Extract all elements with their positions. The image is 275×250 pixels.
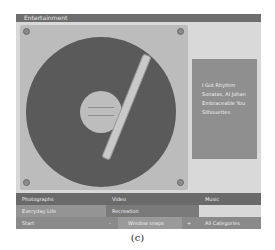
playlist-panel: I Got Rhythm Sonatas, Al Johan Embraceab…	[192, 59, 257, 159]
playlist-item[interactable]: I Got Rhythm	[202, 82, 235, 88]
vinyl-record[interactable]	[26, 37, 176, 187]
everyday-life-item[interactable]: Everyday Life	[16, 205, 106, 217]
header-photographs[interactable]: Photographs	[16, 193, 106, 205]
playlist-item[interactable]: Embraceable You	[202, 100, 245, 106]
main-area: I Got Rhythm Sonatas, Al Johan Embraceab…	[16, 22, 261, 193]
bottom-panel: Photographs Video Music Everyday Life Re…	[16, 193, 261, 229]
music-selected-field[interactable]	[199, 205, 261, 217]
all-categories-dropdown[interactable]: All Categories	[199, 217, 261, 229]
screw-icon	[23, 179, 30, 186]
turntable	[20, 25, 188, 190]
header-music[interactable]: Music	[199, 193, 261, 205]
minus-button[interactable]: -	[106, 217, 118, 229]
playlist-item[interactable]: Sonatas, Al Johan	[202, 91, 246, 97]
entertainment-window: Entertainment I Got Rhythm Sonatas, Al J…	[16, 14, 261, 229]
screw-icon	[23, 28, 30, 35]
playlist-item[interactable]: Silhouettes	[202, 109, 230, 115]
screw-icon	[177, 179, 184, 186]
window-snaps-field[interactable]: Window snaps	[118, 217, 182, 229]
screw-icon	[177, 28, 184, 35]
header-video[interactable]: Video	[106, 193, 199, 205]
start-button[interactable]: Start	[16, 217, 106, 229]
figure-caption: (c)	[0, 232, 275, 243]
plus-button[interactable]: +	[182, 217, 199, 229]
recreation-item[interactable]: Recreation	[106, 205, 199, 217]
window-title: Entertainment	[16, 14, 261, 22]
